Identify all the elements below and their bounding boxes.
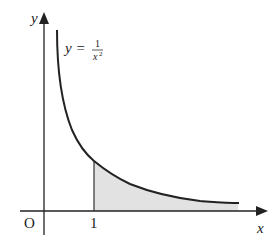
equation-numerator: 1	[95, 38, 100, 49]
x-axis-arrow-icon	[256, 206, 268, 216]
shaded-region	[94, 161, 238, 211]
equation-exponent: 2	[99, 50, 103, 58]
equation-lhs: y =	[63, 40, 86, 56]
y-axis-label: y	[29, 10, 38, 26]
equation-denominator: x	[92, 51, 98, 62]
origin-label: O	[24, 215, 35, 231]
x-tick-label-1: 1	[90, 215, 98, 231]
y-axis-arrow-icon	[39, 12, 49, 24]
equation-label: y = 1 x 2	[63, 38, 103, 62]
graph-canvas: y x O 1 y = 1 x 2	[0, 0, 279, 249]
x-axis-label: x	[256, 220, 264, 236]
